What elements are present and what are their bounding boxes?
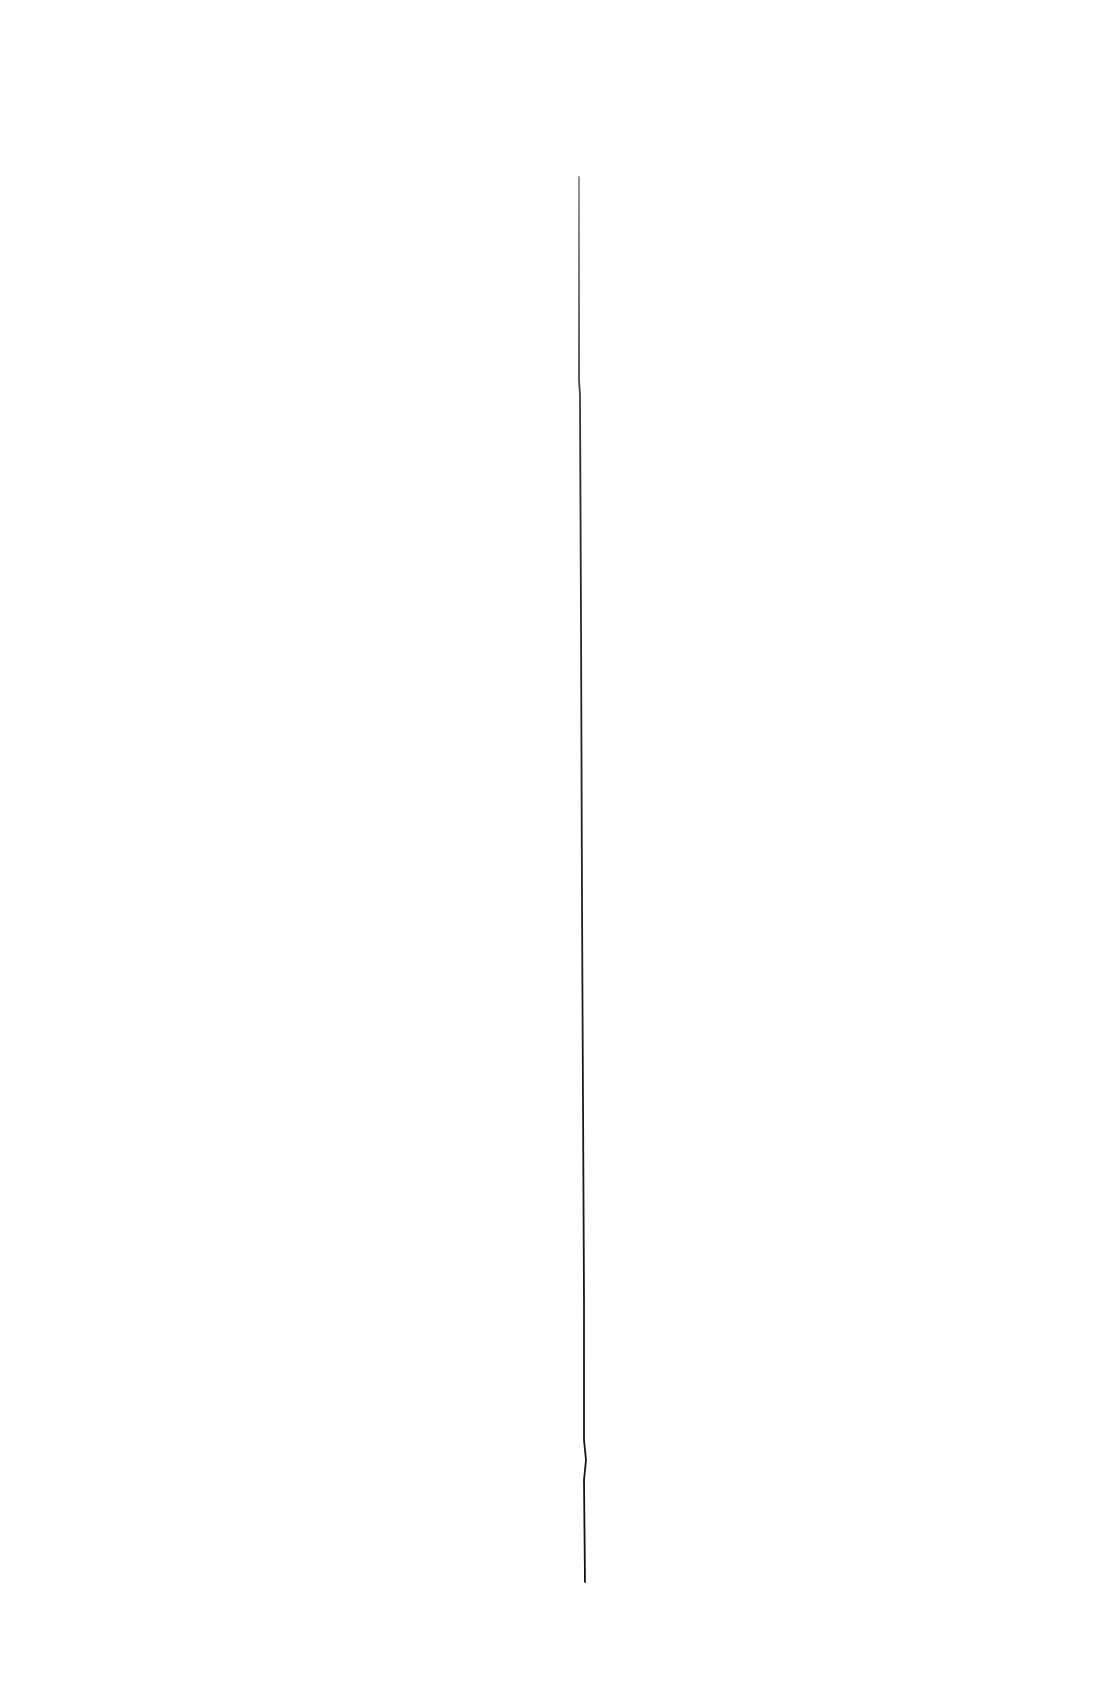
vertical-line-drawing <box>0 0 1114 1703</box>
scanned-page: Blank scanned page with a single hand-dr… <box>0 0 1114 1703</box>
scan-speck <box>249 109 250 110</box>
hand-drawn-vertical-line <box>579 177 586 1582</box>
scan-speck <box>399 1054 400 1055</box>
